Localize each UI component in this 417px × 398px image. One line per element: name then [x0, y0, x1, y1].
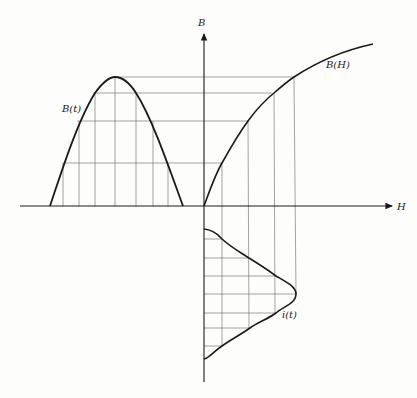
- b-axis-label: B: [197, 17, 205, 28]
- bt-curve: [50, 77, 183, 206]
- it-curve-label: i(t): [282, 309, 297, 320]
- bh-curve-label: B(H): [325, 59, 350, 70]
- it-grid-horizontal: [204, 239, 296, 346]
- h-axis-label: H: [396, 201, 406, 212]
- bt-curve-label: B(t): [61, 103, 81, 114]
- projection-lines-vertical: [222, 77, 296, 346]
- magnetization-diagram: B H B(t) B(H) i(t): [0, 0, 417, 398]
- bt-grid-vertical: [63, 77, 168, 206]
